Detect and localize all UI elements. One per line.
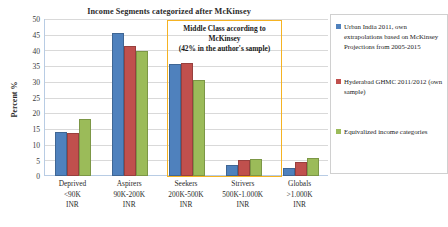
bar-strivers-equivalized bbox=[250, 159, 262, 176]
y-tick-50: 50 bbox=[18, 15, 40, 24]
bar-deprived-equivalized bbox=[79, 119, 91, 176]
bar-strivers-hyderabad bbox=[238, 160, 250, 176]
x-label-seekers-range: 200K-500K bbox=[158, 190, 215, 201]
bar-aspirers-urban-india bbox=[112, 33, 124, 176]
x-label-seekers: Seekers 200K-500K INR bbox=[158, 179, 215, 211]
y-tick-0: 0 bbox=[18, 172, 40, 181]
legend-label-hyderabad: Hyderabad GHMC 2011/2012 (own sample) bbox=[344, 77, 446, 97]
legend-swatch-icon-urban-india bbox=[336, 24, 341, 29]
y-tick-40: 40 bbox=[18, 47, 40, 56]
middle-class-annotation: Middle Class according to McKinsey (42% … bbox=[169, 24, 280, 54]
legend-item-urban-india[interactable]: Urban India 2011, own extrapolations bas… bbox=[336, 22, 446, 52]
bar-seekers-urban-india bbox=[169, 64, 181, 176]
y-tick-45: 45 bbox=[18, 31, 40, 40]
x-label-deprived-name: Deprived bbox=[44, 179, 101, 190]
legend-item-equivalized[interactable]: Equivalized income categories bbox=[336, 127, 446, 137]
legend-swatch-icon-equivalized bbox=[336, 129, 341, 134]
bar-deprived-urban-india bbox=[55, 132, 67, 176]
x-label-strivers-name: Strivers bbox=[214, 179, 271, 190]
x-axis-labels: Deprived <90K INR Aspirers 90K-200K INR … bbox=[44, 179, 328, 225]
y-tick-25: 25 bbox=[18, 94, 40, 103]
y-tick-15: 15 bbox=[18, 125, 40, 134]
x-label-globals-range: >1.000K bbox=[271, 190, 328, 201]
x-label-strivers-range: 500K-1.000K bbox=[214, 190, 271, 201]
legend-label-equivalized: Equivalized income categories bbox=[344, 127, 427, 137]
annotation-line-3: (42% in the author's sample) bbox=[179, 44, 271, 53]
bar-strivers-urban-india bbox=[226, 165, 238, 176]
bar-aspirers-hyderabad bbox=[124, 46, 136, 176]
bar-globals-hyderabad bbox=[295, 162, 307, 176]
x-label-seekers-name: Seekers bbox=[158, 179, 215, 190]
x-label-deprived: Deprived <90K INR bbox=[44, 179, 101, 211]
bar-globals-urban-india bbox=[283, 168, 295, 176]
bar-globals-equivalized bbox=[307, 158, 319, 176]
bar-group-globals bbox=[272, 19, 329, 176]
y-tick-10: 10 bbox=[18, 141, 40, 150]
x-label-globals: Globals >1.000K INR bbox=[271, 179, 328, 211]
y-tick-30: 30 bbox=[18, 78, 40, 87]
chart-legend: Urban India 2011, own extrapolations bas… bbox=[330, 14, 448, 174]
annotation-line-1: Middle Class according to bbox=[183, 24, 265, 33]
x-label-globals-unit: INR bbox=[271, 200, 328, 211]
legend-swatch-icon-hyderabad bbox=[336, 79, 341, 84]
bar-seekers-hyderabad bbox=[181, 63, 193, 176]
legend-item-hyderabad[interactable]: Hyderabad GHMC 2011/2012 (own sample) bbox=[336, 77, 446, 97]
bar-group-deprived bbox=[45, 19, 102, 176]
y-tick-5: 5 bbox=[18, 157, 40, 166]
bar-seekers-equivalized bbox=[193, 80, 205, 176]
x-label-strivers-unit: INR bbox=[214, 200, 271, 211]
chart-title: Income Segments categorized after McKins… bbox=[44, 7, 294, 16]
x-label-globals-name: Globals bbox=[271, 179, 328, 190]
y-tick-35: 35 bbox=[18, 62, 40, 71]
x-label-aspirers-name: Aspirers bbox=[101, 179, 158, 190]
x-label-aspirers-unit: INR bbox=[101, 200, 158, 211]
x-label-deprived-unit: INR bbox=[44, 200, 101, 211]
chart-container: Income Segments categorized after McKins… bbox=[0, 0, 448, 227]
x-label-deprived-range: <90K bbox=[44, 190, 101, 201]
bar-deprived-hyderabad bbox=[67, 133, 79, 176]
y-tick-20: 20 bbox=[18, 109, 40, 118]
x-label-strivers: Strivers 500K-1.000K INR bbox=[214, 179, 271, 211]
annotation-line-2: McKinsey bbox=[208, 34, 240, 43]
x-label-aspirers-range: 90K-200K bbox=[101, 190, 158, 201]
x-label-aspirers: Aspirers 90K-200K INR bbox=[101, 179, 158, 211]
x-label-seekers-unit: INR bbox=[158, 200, 215, 211]
bar-aspirers-equivalized bbox=[136, 51, 148, 176]
legend-label-urban-india: Urban India 2011, own extrapolations bas… bbox=[344, 22, 446, 52]
bar-group-aspirers bbox=[102, 19, 159, 176]
